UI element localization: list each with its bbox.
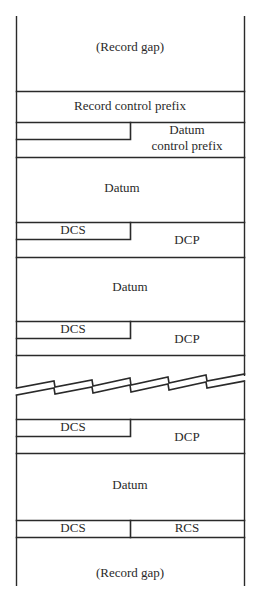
dcp-label-3: DCP <box>174 429 199 444</box>
dcs-label-2: DCS <box>60 321 85 336</box>
datum-control-prefix-label-line2: control prefix <box>151 138 223 153</box>
dcp-label-1: DCP <box>174 232 199 247</box>
datum-block-3: Datum <box>112 477 147 492</box>
record-structure-diagram: (Record gap) Record control prefix Datum… <box>0 0 258 596</box>
datum-block-1: Datum <box>104 180 139 195</box>
dcs-label-1: DCS <box>60 222 85 237</box>
dcs-rcs-block: DCS RCS <box>60 520 199 538</box>
datum-control-prefix-block: Datum control prefix <box>17 122 224 153</box>
datum-label-1: Datum <box>104 180 139 195</box>
datum-label-3: Datum <box>112 477 147 492</box>
dcs-dcp-block-3: DCS DCP <box>17 419 200 444</box>
dcs-label-final: DCS <box>60 520 85 535</box>
datum-block-2: Datum <box>112 279 147 294</box>
break-zigzag <box>17 374 245 395</box>
datum-control-prefix-label-line1: Datum <box>169 122 204 137</box>
step-divider <box>17 123 131 140</box>
dcs-dcp-block-1: DCS DCP <box>17 222 200 247</box>
record-gap-bottom-label: (Record gap) <box>96 565 164 580</box>
record-control-prefix-label: Record control prefix <box>74 98 186 113</box>
datum-label-2: Datum <box>112 279 147 294</box>
rcs-label: RCS <box>175 520 200 535</box>
dcp-label-2: DCP <box>174 331 199 346</box>
record-gap-bottom: (Record gap) <box>96 565 164 580</box>
record-gap-top: (Record gap) <box>96 39 164 54</box>
record-control-prefix-block: Record control prefix <box>74 98 186 113</box>
dcs-dcp-block-2: DCS DCP <box>17 321 200 346</box>
dcs-label-3: DCS <box>60 419 85 434</box>
record-gap-top-label: (Record gap) <box>96 39 164 54</box>
